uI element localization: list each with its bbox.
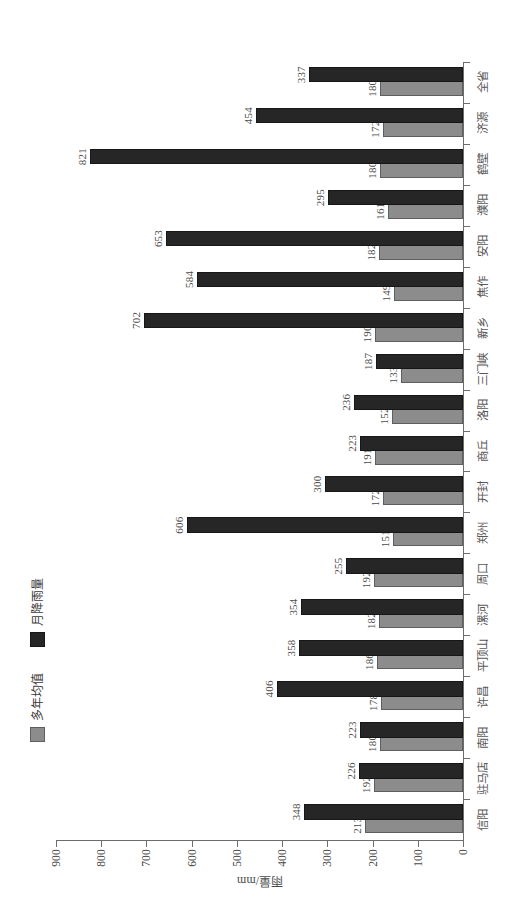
category-axis-label: 漯河 (474, 604, 490, 626)
bar[interactable]: 149 (394, 285, 463, 301)
bar-group: 152236洛阳 (56, 390, 463, 431)
category-axis-label: 信阳 (474, 809, 490, 831)
bar[interactable]: 584 (197, 272, 463, 288)
value-axis-title: 雨量/mm (56, 872, 463, 892)
bar[interactable]: 295 (328, 190, 463, 206)
value-axis-tick (282, 840, 283, 847)
bar-value-label: 354 (287, 598, 299, 615)
category-axis-tick (463, 635, 470, 636)
bar-value-label: 255 (332, 558, 344, 575)
bar[interactable]: 161 (388, 203, 463, 219)
category-axis-tick (463, 676, 470, 677)
bar[interactable]: 236 (354, 395, 463, 411)
bar[interactable]: 172 (383, 121, 463, 137)
bar[interactable]: 187 (376, 354, 463, 370)
category-axis-label: 驻马店 (474, 762, 490, 795)
value-axis-tick (463, 840, 464, 847)
value-axis-tick-label: 100 (412, 849, 424, 867)
bar[interactable]: 226 (359, 763, 463, 779)
bar[interactable]: 180 (380, 162, 463, 178)
category-axis-tick (463, 185, 470, 186)
bar[interactable]: 702 (144, 313, 463, 329)
category-axis-label: 郑州 (474, 522, 490, 544)
legend-item[interactable]: 多年均值 (28, 673, 46, 742)
bar[interactable]: 191 (375, 449, 463, 465)
bar-group: 151606郑州 (56, 512, 463, 553)
bar[interactable]: 182 (379, 244, 463, 260)
category-axis-tick (463, 308, 470, 309)
bar-group: 190702新乡 (56, 308, 463, 349)
category-axis-label: 三门峡 (474, 353, 490, 386)
bar-value-label: 358 (285, 639, 297, 656)
bar[interactable]: 354 (301, 599, 463, 615)
bar-value-label: 454 (242, 107, 254, 124)
bar[interactable]: 152 (392, 408, 463, 424)
bar[interactable]: 180 (380, 736, 463, 752)
bar-group: 161295濮阳 (56, 185, 463, 226)
legend-item[interactable]: 月降雨量 (28, 578, 46, 647)
bar[interactable]: 348 (304, 804, 463, 820)
bar[interactable]: 186 (377, 654, 463, 670)
value-axis-tick-label: 800 (95, 849, 107, 867)
bar[interactable]: 337 (309, 67, 463, 83)
bar[interactable]: 223 (360, 722, 463, 738)
bar-group: 213348信阳 (56, 799, 463, 840)
bar[interactable]: 151 (393, 531, 463, 547)
black-swatch (30, 632, 45, 647)
category-axis-label: 焦作 (474, 276, 490, 298)
bar-chart-figure: 多年均值月降雨量 雨量/mm 0100200300400500600700800… (0, 0, 518, 912)
category-axis-tick (463, 144, 470, 145)
bar[interactable]: 133 (401, 367, 463, 383)
category-axis-tick (463, 758, 470, 759)
category-axis-tick (463, 717, 470, 718)
category-axis-tick (463, 553, 470, 554)
value-axis-tick-label: 700 (140, 849, 152, 867)
bar[interactable]: 358 (299, 640, 463, 656)
category-axis-tick (463, 594, 470, 595)
bar-group: 180337全省 (56, 62, 463, 103)
bar[interactable]: 178 (381, 695, 463, 711)
bar[interactable]: 213 (365, 818, 463, 834)
bar[interactable]: 223 (360, 436, 463, 452)
bar-group: 178406许昌 (56, 676, 463, 717)
value-axis-tick-label: 200 (367, 849, 379, 867)
bar-value-label: 226 (345, 762, 357, 779)
category-axis-line (463, 62, 464, 840)
value-axis-tick-label: 500 (231, 849, 243, 867)
category-axis-label: 平顶山 (474, 639, 490, 672)
category-axis-label: 新乡 (474, 317, 490, 339)
bar-group: 133187三门峡 (56, 349, 463, 390)
bar-value-label: 337 (295, 66, 307, 83)
category-axis-label: 济源 (474, 112, 490, 134)
value-axis-line (56, 840, 463, 841)
rotated-figure-frame: 多年均值月降雨量 雨量/mm 0100200300400500600700800… (0, 0, 518, 912)
bar[interactable]: 192 (374, 777, 463, 793)
gray-swatch (30, 727, 45, 742)
bar[interactable]: 300 (325, 476, 463, 492)
category-axis-tick (463, 431, 470, 432)
chart-legend: 多年均值月降雨量 (28, 578, 46, 742)
bar-group: 149584焦作 (56, 267, 463, 308)
category-axis-tick (463, 103, 470, 104)
bar[interactable]: 454 (256, 108, 463, 124)
bar[interactable]: 821 (90, 149, 463, 165)
plot-area: 0100200300400500600700800900213348信阳1922… (56, 62, 463, 840)
bar[interactable]: 653 (166, 231, 463, 247)
bar-group: 192255周口 (56, 553, 463, 594)
bar-group: 192226驻马店 (56, 758, 463, 799)
bar-value-label: 406 (263, 680, 275, 697)
bar[interactable]: 606 (187, 517, 463, 533)
bar[interactable]: 182 (379, 613, 463, 629)
bar[interactable]: 255 (346, 558, 463, 574)
category-axis-tick (463, 226, 470, 227)
bar-group: 182653安阳 (56, 226, 463, 267)
bar[interactable]: 192 (374, 572, 463, 588)
bar-value-label: 295 (314, 189, 326, 206)
bar[interactable]: 406 (277, 681, 463, 697)
bar[interactable]: 190 (375, 326, 463, 342)
category-axis-label: 周口 (474, 563, 490, 585)
category-axis-tick (463, 799, 470, 800)
bar[interactable]: 180 (380, 81, 463, 97)
bar[interactable]: 172 (383, 490, 463, 506)
category-axis-label: 全省 (474, 71, 490, 93)
